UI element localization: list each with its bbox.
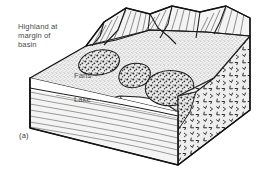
label-lake: Lake [74, 95, 91, 104]
label-fans: Fans [74, 71, 91, 80]
label-highland: Highland at margin of basin [18, 22, 58, 50]
figure-block-diagram: Highland at margin of basin Fans Lake (a… [0, 0, 264, 182]
figure-caption: (a) [19, 131, 29, 140]
